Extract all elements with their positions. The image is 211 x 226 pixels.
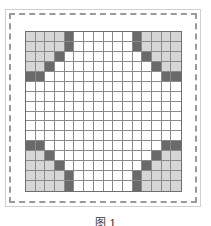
grid-cell [152, 72, 162, 82]
grid-cell [55, 62, 65, 72]
grid-cell [152, 82, 162, 92]
grid-cell-light [171, 42, 181, 52]
grid-cell [133, 82, 143, 92]
grid-cell-dark [142, 161, 152, 171]
grid-cell [152, 121, 162, 131]
grid-cell [94, 131, 104, 141]
grid-cell [171, 102, 181, 112]
grid-cell [45, 92, 55, 102]
grid-cell-light [55, 171, 65, 181]
grid-cell [26, 121, 36, 131]
grid-cell [94, 102, 104, 112]
grid-cell [65, 141, 75, 151]
grid-cell [74, 52, 84, 62]
grid-cell [133, 161, 143, 171]
grid-cell-light [142, 32, 152, 42]
grid-cell-dark [133, 171, 143, 181]
grid-cell-light [26, 181, 36, 191]
grid-cell [55, 72, 65, 82]
grid-cell [55, 102, 65, 112]
grid-cell [74, 102, 84, 112]
grid-cell [152, 92, 162, 102]
grid-cell [65, 82, 75, 92]
grid-cell [94, 82, 104, 92]
grid-cell [162, 121, 172, 131]
grid-cell [123, 141, 133, 151]
grid-cell [65, 151, 75, 161]
grid-cell-light [171, 171, 181, 181]
grid-cell-light [142, 181, 152, 191]
grid-cell-dark [133, 181, 143, 191]
grid-cell [133, 141, 143, 151]
grid-cell-light [171, 161, 181, 171]
grid-cell [113, 52, 123, 62]
grid-cell [94, 121, 104, 131]
grid-cell [74, 92, 84, 102]
grid-cell [171, 121, 181, 131]
square-grid [25, 31, 182, 192]
grid-cell [84, 161, 94, 171]
grid-cell [133, 131, 143, 141]
grid-cell [26, 92, 36, 102]
grid-cell [45, 112, 55, 122]
grid-cell [133, 102, 143, 112]
grid-cell-dark [142, 52, 152, 62]
grid-cell [84, 171, 94, 181]
grid-cell [84, 112, 94, 122]
grid-cell [55, 82, 65, 92]
grid-cell [94, 72, 104, 82]
grid-cell-light [152, 171, 162, 181]
grid-cell [113, 161, 123, 171]
grid-cell [113, 42, 123, 52]
grid-cell [74, 82, 84, 92]
grid-cell [133, 151, 143, 161]
grid-cell [36, 121, 46, 131]
grid-cell [94, 62, 104, 72]
grid-cell-light [45, 161, 55, 171]
grid-cell-light [45, 52, 55, 62]
grid-cell [142, 141, 152, 151]
grid-cell [162, 131, 172, 141]
grid-cell [152, 102, 162, 112]
grid-cell-light [152, 161, 162, 171]
grid-cell [84, 151, 94, 161]
grid-cell-light [55, 32, 65, 42]
grid-cell-dark [65, 171, 75, 181]
grid-cell [113, 112, 123, 122]
grid-cell [152, 112, 162, 122]
grid-cell [74, 181, 84, 191]
grid-cell-light [45, 42, 55, 52]
grid-cell [113, 121, 123, 131]
grid-cell [123, 32, 133, 42]
grid-cell [94, 141, 104, 151]
grid-cell [55, 141, 65, 151]
grid-cell [74, 112, 84, 122]
grid-cell-light [36, 32, 46, 42]
grid-cell [113, 181, 123, 191]
grid-cell [113, 92, 123, 102]
grid-cell [123, 42, 133, 52]
grid-cell-light [26, 151, 36, 161]
grid-cell [45, 72, 55, 82]
grid-cell [123, 102, 133, 112]
grid-cell-dark [45, 151, 55, 161]
grid-cell [133, 121, 143, 131]
grid-cell [36, 92, 46, 102]
grid-cell [55, 151, 65, 161]
grid-cell [45, 102, 55, 112]
grid-cell-light [162, 151, 172, 161]
grid-cell-light [26, 62, 36, 72]
grid-cell-light [45, 171, 55, 181]
grid-cell-light [142, 171, 152, 181]
grid-cell [36, 131, 46, 141]
grid-cell [94, 171, 104, 181]
grid-cell-light [171, 151, 181, 161]
grid-cell [74, 32, 84, 42]
figure-caption: 图 1 [0, 218, 211, 226]
grid-cell [104, 161, 114, 171]
grid-cell-light [162, 62, 172, 72]
grid-cell [162, 92, 172, 102]
grid-cell [84, 62, 94, 72]
grid-cell [94, 52, 104, 62]
grid-cell [65, 62, 75, 72]
